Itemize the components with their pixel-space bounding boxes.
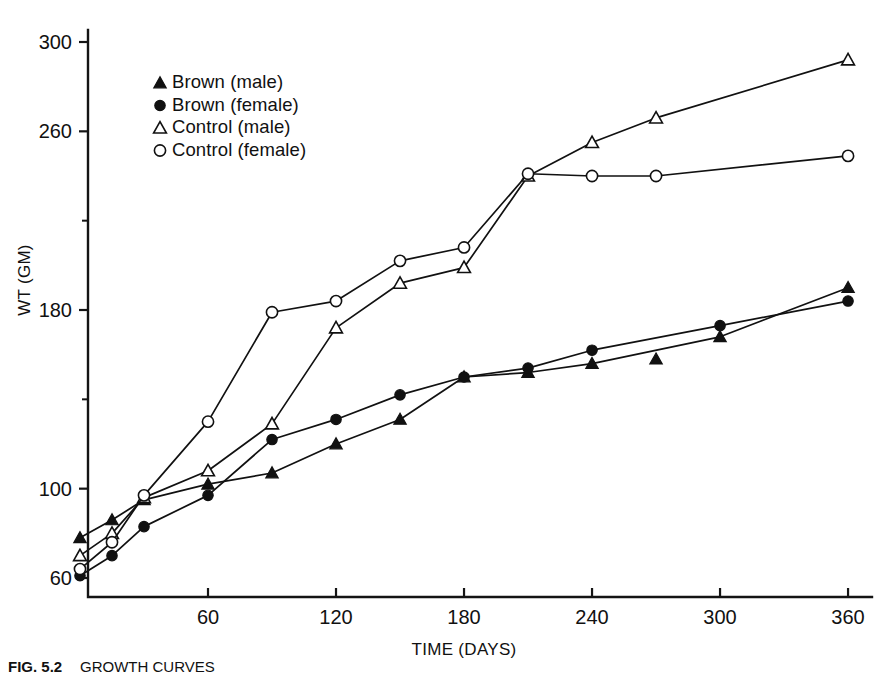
legend-item-control-female: Control (female) — [154, 139, 306, 160]
data-point-marker — [842, 150, 853, 161]
data-point-marker — [523, 363, 533, 373]
legend-marker-icon — [154, 77, 166, 88]
data-point-marker — [458, 261, 471, 272]
legend-label: Brown (female) — [172, 94, 299, 115]
x-tick-label-180: 180 — [447, 606, 480, 628]
data-point-marker — [459, 372, 469, 382]
data-point-marker — [395, 390, 405, 400]
x-tick-label-120: 120 — [319, 606, 352, 628]
x-tick-label-300: 300 — [703, 606, 736, 628]
data-point-marker — [266, 418, 279, 429]
series-control-female — [74, 150, 853, 574]
data-point-marker — [650, 353, 662, 364]
data-point-marker — [714, 331, 726, 342]
data-point-marker — [266, 467, 278, 478]
figure-caption: FIG. 5.2GROWTH CURVES — [8, 658, 215, 675]
data-point-marker — [203, 490, 213, 500]
legend-item-control-male: Control (male) — [154, 116, 291, 137]
data-point-marker — [266, 307, 277, 318]
data-point-marker — [202, 416, 213, 427]
y-tick-label-100: 100 — [39, 478, 72, 500]
data-point-marker — [586, 170, 597, 181]
figure-root: 6010018026030060120180240300360 Brown (m… — [0, 0, 885, 675]
legend-label: Brown (male) — [172, 71, 283, 92]
x-axis-title: TIME (DAYS) — [412, 640, 517, 659]
data-point-marker — [330, 295, 341, 306]
data-point-marker — [74, 549, 87, 560]
legend-marker-icon — [154, 122, 167, 133]
data-point-marker — [267, 434, 277, 444]
data-point-marker — [587, 345, 597, 355]
data-point-marker — [394, 255, 405, 266]
legend-item-brown-female: Brown (female) — [155, 94, 299, 115]
legend-marker-icon — [154, 145, 165, 156]
data-point-marker — [458, 242, 469, 253]
data-point-marker — [138, 490, 149, 501]
y-tick-label-300: 300 — [39, 31, 72, 53]
legend-marker-icon — [155, 100, 165, 110]
data-point-marker — [330, 321, 343, 332]
data-point-marker — [331, 414, 341, 424]
data-point-marker — [586, 136, 599, 147]
data-point-marker — [139, 521, 149, 531]
caption-label: FIG. 5.2 — [8, 658, 62, 675]
data-point-marker — [74, 532, 86, 543]
data-point-marker — [106, 514, 118, 525]
data-point-marker — [202, 464, 215, 475]
data-point-marker — [74, 563, 85, 574]
x-tick-label-360: 360 — [831, 606, 864, 628]
data-point-marker — [330, 438, 342, 449]
legend-label: Control (male) — [172, 116, 291, 137]
data-point-marker — [522, 168, 533, 179]
axes-group: 6010018026030060120180240300360 — [39, 30, 872, 628]
data-point-marker — [106, 537, 117, 548]
caption-body: GROWTH CURVES — [80, 658, 215, 675]
data-point-marker — [842, 281, 854, 292]
data-point-marker — [843, 296, 853, 306]
data-point-marker — [715, 320, 725, 330]
data-point-marker — [650, 170, 661, 181]
data-point-marker — [394, 413, 406, 424]
legend-item-brown-male: Brown (male) — [154, 71, 283, 92]
series-line — [80, 301, 848, 576]
y-tick-label-180: 180 — [39, 299, 72, 321]
labels-group: TIME (DAYS)WT (GM)FIG. 5.2GROWTH CURVES — [8, 244, 517, 675]
y-tick-label-260: 260 — [39, 120, 72, 142]
x-tick-label-60: 60 — [197, 606, 219, 628]
series-line — [80, 156, 848, 569]
legend-group: Brown (male)Brown (female)Control (male)… — [154, 71, 307, 160]
y-axis-title: WT (GM) — [15, 244, 34, 316]
series-brown-female — [75, 296, 853, 581]
growth-curve-chart: 6010018026030060120180240300360 Brown (m… — [0, 0, 885, 675]
series-line — [80, 288, 848, 538]
x-tick-label-240: 240 — [575, 606, 608, 628]
data-point-marker — [842, 53, 855, 64]
data-point-marker — [107, 550, 117, 560]
y-tick-label-60: 60 — [50, 567, 72, 589]
legend-label: Control (female) — [172, 139, 306, 160]
extra-data-point — [650, 353, 662, 364]
